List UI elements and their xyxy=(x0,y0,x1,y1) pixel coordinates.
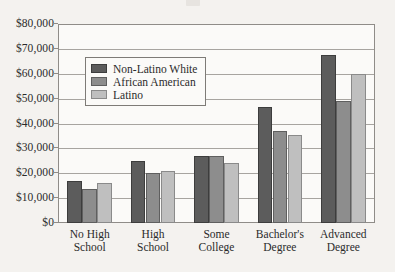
bar xyxy=(97,183,112,223)
bar xyxy=(82,189,97,223)
bar xyxy=(161,171,176,223)
bar xyxy=(146,173,161,223)
bar xyxy=(336,101,351,223)
y-axis-tick-label: $20,000 xyxy=(0,167,54,178)
y-axis-tick-label: $80,000 xyxy=(0,18,54,29)
y-axis-tick-label: $60,000 xyxy=(0,68,54,79)
legend-label: Latino xyxy=(113,89,143,101)
scan-artifact xyxy=(186,0,200,6)
legend-label: Non-Latino White xyxy=(113,63,197,75)
legend-item: African American xyxy=(91,75,197,88)
legend-swatch xyxy=(91,77,107,86)
x-axis-tick-label: AdvancedDegree xyxy=(298,228,388,253)
bar xyxy=(209,156,224,223)
legend-item: Latino xyxy=(91,88,197,101)
legend: Non-Latino WhiteAfrican AmericanLatino xyxy=(85,57,206,106)
bar xyxy=(288,135,303,223)
legend-item: Non-Latino White xyxy=(91,62,197,75)
bar xyxy=(273,131,288,223)
bar xyxy=(351,74,366,223)
y-axis-tick-label: $30,000 xyxy=(0,142,54,153)
y-axis-tick-label: $70,000 xyxy=(0,43,54,54)
y-axis-tick-label: $10,000 xyxy=(0,192,54,203)
bar xyxy=(194,156,209,223)
bar xyxy=(321,55,336,223)
x-axis-tick-label-line: Degree xyxy=(298,241,388,254)
bar xyxy=(258,107,273,223)
bar xyxy=(67,181,82,223)
legend-label: African American xyxy=(113,76,196,88)
bars-layer xyxy=(58,24,375,223)
y-axis-tick-label: $40,000 xyxy=(0,118,54,129)
income-by-education-bar-chart: $0$10,000$20,000$30,000$40,000$50,000$60… xyxy=(0,0,395,272)
bar xyxy=(224,163,239,223)
x-axis-tick-label-line: Advanced xyxy=(298,228,388,241)
y-axis-tick-label: $0 xyxy=(0,217,54,228)
legend-swatch xyxy=(91,64,107,73)
y-axis-tick-label: $50,000 xyxy=(0,93,54,104)
legend-swatch xyxy=(91,90,107,99)
bar xyxy=(131,161,146,223)
